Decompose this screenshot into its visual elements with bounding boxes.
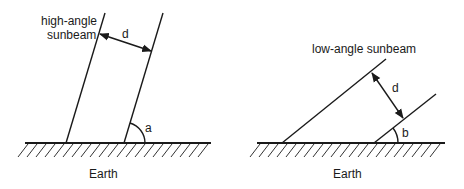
angle-label: b	[402, 126, 409, 140]
high-angle-diagram: high-angle sunbeam d a	[18, 13, 211, 181]
earth-label: Earth	[333, 167, 362, 181]
sunbeam-edge-right	[124, 13, 163, 143]
sunbeam-angle-figure: high-angle sunbeam d a	[0, 0, 464, 189]
earth-label: Earth	[89, 167, 118, 181]
distance-arrow-icon	[372, 73, 403, 118]
high-angle-title-line2: sunbeam	[47, 28, 96, 42]
distance-label: d	[392, 81, 399, 95]
sunbeam-edge-left	[282, 59, 386, 143]
angle-label: a	[145, 121, 152, 135]
angle-arc-icon	[393, 128, 398, 143]
earth-hatching	[18, 144, 208, 157]
angle-arc-icon	[130, 123, 145, 143]
low-angle-diagram: low-angle sunbeam d b	[250, 42, 445, 181]
earth-hatching	[250, 144, 440, 157]
distance-label: d	[122, 27, 129, 41]
low-angle-title: low-angle sunbeam	[312, 42, 416, 56]
high-angle-title-line1: high-angle	[41, 14, 97, 28]
